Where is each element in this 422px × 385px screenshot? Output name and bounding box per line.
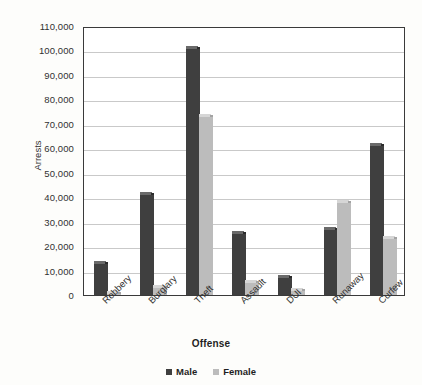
legend-label-male: Male	[176, 366, 197, 377]
y-tick-label: 40,000	[44, 193, 74, 203]
bar-chart-figure: Arrests 010,00020,00030,00040,00050,0006…	[0, 0, 422, 385]
y-tick-label: 80,000	[44, 95, 74, 105]
bar-group	[94, 28, 121, 295]
y-tick-label: 10,000	[44, 267, 74, 277]
bar-group	[278, 28, 305, 295]
bar-assault-male	[232, 231, 246, 295]
bar-group	[324, 28, 351, 295]
y-tick-label: 70,000	[44, 120, 74, 130]
bar-theft-female	[199, 114, 213, 295]
bar-group	[186, 28, 213, 295]
legend-label-female: Female	[223, 366, 256, 377]
y-axis-tick-labels: 010,00020,00030,00040,00050,00060,00070,…	[0, 27, 80, 296]
bar-curfew-male	[370, 143, 384, 295]
legend-swatch-female-icon	[213, 369, 219, 375]
legend-item-male: Male	[166, 366, 197, 377]
y-tick-label: 30,000	[44, 218, 74, 228]
bar-theft-male	[186, 46, 200, 295]
bar-group	[370, 28, 397, 295]
bar-runaway-male	[324, 227, 338, 295]
bar-group	[140, 28, 167, 295]
y-tick-label: 110,000	[40, 22, 74, 32]
legend-swatch-male-icon	[166, 369, 172, 375]
bars-layer	[84, 28, 404, 295]
bar-robbery-male	[94, 261, 108, 295]
bar-burglary-male	[140, 192, 154, 295]
y-tick-label: 90,000	[44, 71, 74, 81]
chart-legend: Male Female	[0, 366, 422, 377]
legend-item-female: Female	[213, 366, 256, 377]
x-axis-title: Offense	[0, 338, 422, 349]
y-tick-label: 60,000	[44, 144, 74, 154]
y-tick-label: 100,000	[39, 46, 74, 56]
plot-area	[83, 27, 405, 296]
y-tick-label: 50,000	[44, 169, 74, 179]
y-tick-label: 20,000	[44, 242, 74, 252]
bar-group	[232, 28, 259, 295]
